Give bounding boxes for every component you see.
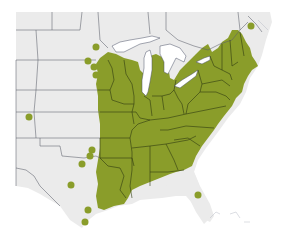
occurrence-dot bbox=[68, 182, 75, 189]
occurrence-dot bbox=[195, 192, 202, 199]
occurrence-dot bbox=[87, 153, 94, 160]
range-map bbox=[0, 0, 289, 243]
occurrence-dot bbox=[85, 207, 92, 214]
occurrence-dot bbox=[89, 147, 96, 154]
occurrence-dot bbox=[93, 44, 100, 51]
occurrence-dot bbox=[91, 64, 98, 71]
occurrence-dot bbox=[248, 23, 255, 30]
occurrence-dot bbox=[26, 114, 33, 121]
occurrence-dot bbox=[93, 72, 100, 79]
occurrence-dot bbox=[82, 219, 89, 226]
occurrence-dot bbox=[79, 161, 86, 168]
occurrence-dot bbox=[85, 58, 92, 65]
